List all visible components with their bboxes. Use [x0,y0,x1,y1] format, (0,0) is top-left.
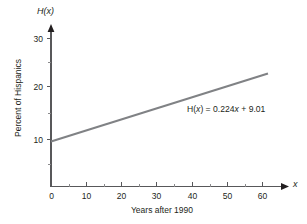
chart-figure: H(x) x 30 20 10 0 10 20 30 40 50 60 Perc… [0,0,307,224]
y-axis-title-text: Percent of Hispanics [14,33,23,163]
x-axis-title: Years after 1990 [51,206,273,215]
x-tick-label-30: 30 [152,192,161,201]
x-axis-symbol: x [293,180,298,189]
y-axis-symbol-fn: H( [37,6,47,16]
regression-equation-annotation: H(x) = 0.224x + 9.01 [187,105,265,114]
x-tick-label-40: 40 [188,192,197,201]
x-tick-label-50: 50 [223,192,232,201]
x-tick-label-60: 60 [258,192,267,201]
y-tick-label-30: 30 [24,34,43,43]
y-axis-symbol-close: ) [51,6,54,16]
y-axis-symbol: H(x) [37,7,54,16]
x-tick-label-20: 20 [117,192,126,201]
y-axis-arrow-icon [48,24,55,32]
equation-fn: H( [187,104,196,114]
y-axis-title: Percent of Hispanics [3,33,17,163]
y-tick-label-20: 20 [24,82,43,91]
equation-fn-close: ) = 0.224 [200,104,234,114]
x-axis-arrow-icon [281,183,289,190]
y-tick-label-10: 10 [24,135,43,144]
x-tick-label-0: 0 [49,192,54,201]
x-tick-label-10: 10 [82,192,91,201]
equation-tail: + 9.01 [239,104,266,114]
